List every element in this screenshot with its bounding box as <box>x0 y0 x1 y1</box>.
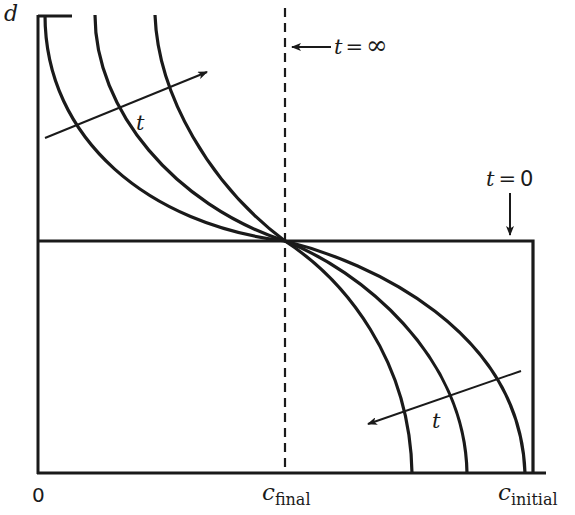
profile-curve-late <box>45 15 412 473</box>
diffusion-diagram: d 0 cfinal cinitial t=∞ t=0 t t <box>0 0 575 515</box>
x-origin-label: 0 <box>32 483 45 507</box>
c-final-label: cfinal <box>262 479 311 509</box>
t-infinity-label: t=∞ <box>334 30 388 60</box>
time-arrow-upper <box>45 72 207 138</box>
profile-curve-mid <box>95 15 467 473</box>
c-initial-label: cinitial <box>498 479 558 509</box>
profile-curve-early <box>155 15 525 473</box>
time-label-lower: t <box>432 409 441 433</box>
t-zero-label: t=0 <box>486 167 533 191</box>
time-label-upper: t <box>136 111 145 135</box>
y-axis-label: d <box>4 1 18 26</box>
time-arrow-lower <box>368 371 521 424</box>
